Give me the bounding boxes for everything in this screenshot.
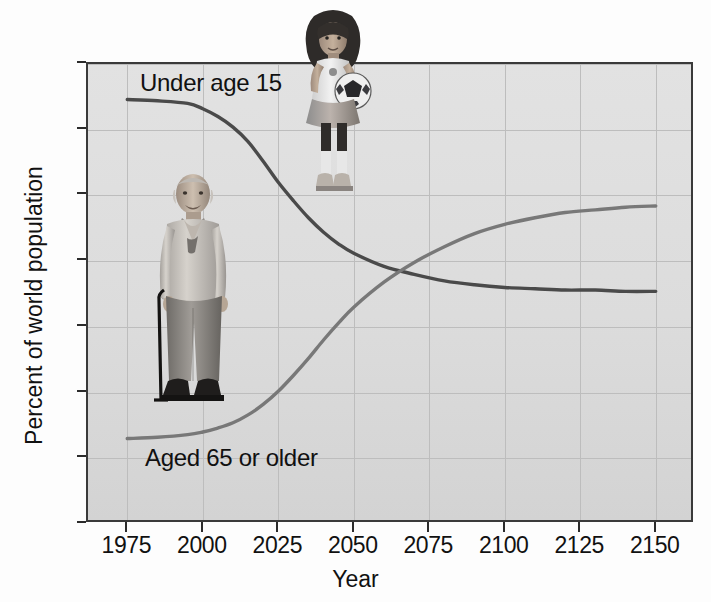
series-label-aged-65-or-older: Aged 65 or older [145,444,318,472]
y-axis-tick [77,192,86,194]
x-axis-tick [427,522,429,532]
x-axis-tick [276,522,278,532]
chart-figure: 05101520253035 1975200020252050207521002… [0,0,711,602]
series-label-under-age-15: Under age 15 [140,69,282,97]
x-axis-tick-label: 2075 [403,532,453,559]
x-axis-tick-label: 2025 [253,532,303,559]
x-axis-tick [352,522,354,532]
x-axis-tick [654,522,656,532]
x-axis-tick-label: 2050 [328,532,378,559]
x-axis-tick-label: 1975 [102,532,152,559]
x-axis-tick [125,522,127,532]
y-axis-title: Percent of world population [21,96,48,516]
girl-with-soccer-ball-photo [290,6,376,202]
elderly-man-with-cane-photo [140,168,246,415]
y-axis-tick [77,127,86,129]
x-axis-tick [503,522,505,532]
x-axis-tick-label: 2150 [630,532,680,559]
y-axis-tick [77,455,86,457]
x-axis-tick-label: 2100 [479,532,529,559]
x-axis-tick-label: 2000 [177,532,227,559]
y-axis-tick [77,390,86,392]
y-axis-tick [77,258,86,260]
y-axis-tick [77,521,86,523]
x-axis-tick [201,522,203,532]
y-axis-tick [77,324,86,326]
x-axis-tick-label: 2125 [554,532,604,559]
x-axis-tick [578,522,580,532]
y-axis-tick [77,61,86,63]
x-axis-title: Year [0,566,711,593]
